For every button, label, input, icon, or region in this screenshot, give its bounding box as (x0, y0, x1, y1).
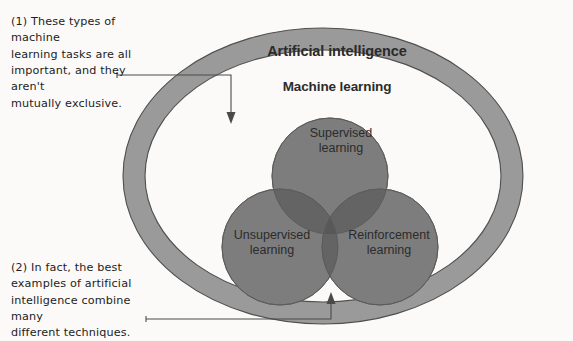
figure-canvas: Artificial intelligence Machine learning… (0, 0, 573, 341)
annotation-note-1: (1) These types of machine learning task… (11, 14, 161, 112)
annotation-note-2: (2) In fact, the best examples of artifi… (11, 260, 161, 341)
